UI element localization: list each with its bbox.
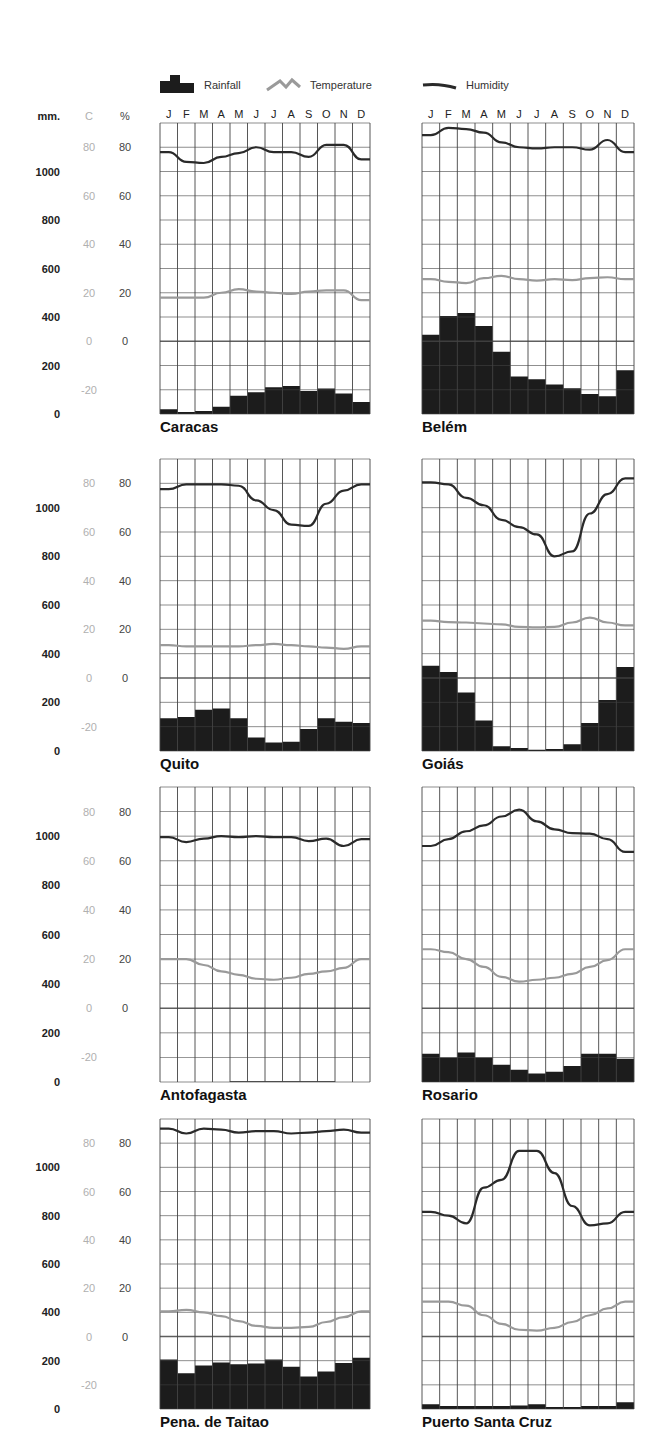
climate-chart [160,123,370,414]
climate-chart [160,1119,370,1409]
climate-chart [422,787,634,1082]
climate-chart [160,459,370,751]
climate-chart [422,459,634,751]
climate-chart [422,123,634,414]
charts-canvas [0,0,660,1448]
climate-chart [160,787,370,1082]
climate-charts-figure: Rainfall Temperature Humidity mm. C % JF… [0,0,660,1448]
climate-chart [422,1119,634,1409]
